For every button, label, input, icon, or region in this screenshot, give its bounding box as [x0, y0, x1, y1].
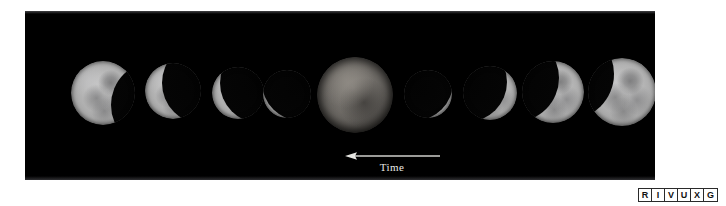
spectrum-band-x: X	[691, 189, 704, 201]
spectrum-band-u: U	[678, 189, 691, 201]
spectrum-band-v: V	[665, 189, 678, 201]
time-axis-label: Time	[362, 161, 422, 173]
moon-lit-disc	[317, 57, 393, 133]
moon-phase-1	[71, 61, 135, 125]
spectrum-band-r: R	[639, 189, 652, 201]
moon-phase-6	[404, 70, 452, 118]
moon-phase-8	[522, 61, 584, 123]
moon-phase-3	[212, 67, 264, 119]
spectrum-band-g: G	[704, 189, 717, 201]
figure-root: Time RIVUXG	[0, 0, 726, 206]
time-arrow-icon	[345, 152, 440, 160]
spectrum-band-i: I	[652, 189, 665, 201]
eclipse-photo-panel: Time	[25, 11, 655, 180]
moon-phase-2	[145, 63, 201, 119]
moon-phase-5	[317, 57, 393, 133]
moon-phase-7	[463, 66, 517, 120]
moon-phase-4	[263, 70, 311, 118]
rivuxg-spectrum-indicator: RIVUXG	[638, 188, 718, 202]
moon-phase-9	[588, 58, 655, 126]
